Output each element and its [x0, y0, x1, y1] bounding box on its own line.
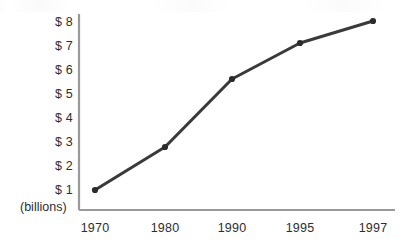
y-axis-tick-label: $ 8: [40, 16, 73, 29]
y-axis-tick-label: $ 1: [40, 184, 73, 197]
y-axis-tick: $ 3: [40, 136, 73, 149]
y-axis-tick-label: $ 4: [40, 112, 73, 125]
data-point-marker: [162, 144, 168, 150]
data-series-line: [95, 21, 373, 190]
data-point-marker: [229, 76, 235, 82]
y-axis-tick-label: $ 3: [40, 136, 73, 149]
data-point-marker: [92, 187, 98, 193]
data-point-marker: [297, 40, 303, 46]
y-axis-tick: $ 6: [40, 64, 73, 77]
x-axis-tick-label: 1970: [81, 222, 110, 235]
y-axis-tick-label: $ 2: [40, 160, 73, 173]
y-axis-tick: $ 4: [40, 112, 73, 125]
y-axis-tick-label: $ 6: [40, 64, 73, 77]
data-point-marker: [370, 18, 376, 24]
x-axis-tick-label: 1980: [151, 222, 180, 235]
y-axis-tick: $ 2: [40, 160, 73, 173]
y-axis-tick: $ 5: [40, 88, 73, 101]
x-axis-tick-label: 1995: [286, 222, 315, 235]
y-axis-tick-label: $ 5: [40, 88, 73, 101]
y-axis-tick: $ 8: [40, 16, 73, 29]
x-axis-tick-label: 1990: [218, 222, 247, 235]
x-axis-tick-label: 1997: [359, 222, 388, 235]
y-axis-tick: $ 7: [40, 40, 73, 53]
line-chart: $ 8$ 7$ 6$ 5$ 4$ 3$ 2$ 1 197019801990199…: [0, 0, 419, 243]
y-axis-units-note: (billions): [20, 201, 67, 214]
y-axis-tick: $ 1: [40, 184, 73, 197]
y-axis-tick-label: $ 7: [40, 40, 73, 53]
